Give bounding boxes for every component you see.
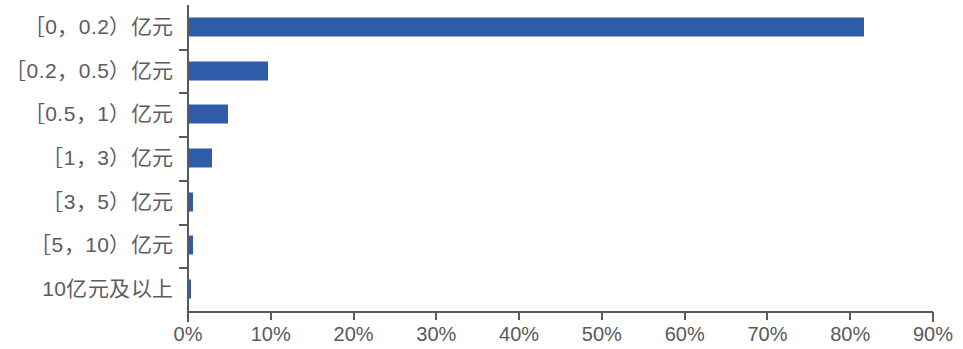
x-axis-tick-label: 60% bbox=[665, 322, 705, 346]
x-axis-tick bbox=[270, 312, 272, 320]
category-label: 10亿元及以上 bbox=[42, 276, 174, 302]
x-axis-tick-label: 90% bbox=[913, 322, 953, 346]
x-axis-tick-label: 10% bbox=[251, 322, 291, 346]
x-axis-tick bbox=[932, 312, 934, 322]
category-label: ［0.2，0.5）亿元 bbox=[5, 58, 174, 84]
category-label: ［5，10）亿元 bbox=[30, 232, 174, 258]
x-axis-line bbox=[188, 311, 933, 313]
bar-chart: ［0，0.2）亿元［0.2，0.5）亿元［0.5，1）亿元［1，3）亿元［3，5… bbox=[0, 0, 963, 349]
x-axis-tick-label: 0% bbox=[174, 322, 203, 346]
x-axis-tick bbox=[684, 312, 686, 320]
bar bbox=[189, 236, 193, 255]
bar bbox=[189, 192, 193, 211]
bar bbox=[189, 61, 268, 80]
x-axis-tick-label: 20% bbox=[334, 322, 374, 346]
x-axis-tick bbox=[353, 312, 355, 320]
bar bbox=[189, 280, 191, 299]
x-axis-tick-label: 50% bbox=[582, 322, 622, 346]
category-label: ［0.5，1）亿元 bbox=[24, 101, 174, 127]
category-label: ［1，3）亿元 bbox=[42, 145, 174, 171]
x-axis-tick bbox=[187, 312, 189, 322]
y-axis-tick bbox=[179, 180, 188, 182]
x-axis-tick bbox=[849, 312, 851, 320]
x-axis-tick bbox=[766, 312, 768, 320]
x-axis-tick bbox=[518, 312, 520, 320]
y-axis-tick bbox=[179, 267, 188, 269]
category-label: ［0，0.2）亿元 bbox=[24, 14, 174, 40]
x-axis-tick-label: 70% bbox=[747, 322, 787, 346]
x-axis-tick-label: 40% bbox=[499, 322, 539, 346]
x-axis-tick bbox=[435, 312, 437, 320]
bar bbox=[189, 17, 864, 36]
y-axis-tick bbox=[179, 136, 188, 138]
category-label: ［3，5）亿元 bbox=[42, 189, 174, 215]
bar bbox=[189, 149, 212, 168]
x-axis-tick bbox=[601, 312, 603, 320]
y-axis-tick bbox=[179, 224, 188, 226]
y-axis-tick bbox=[179, 49, 188, 51]
y-axis-tick bbox=[179, 92, 188, 94]
x-axis-tick-label: 30% bbox=[416, 322, 456, 346]
x-axis-tick-label: 80% bbox=[830, 322, 870, 346]
bar bbox=[189, 105, 228, 124]
